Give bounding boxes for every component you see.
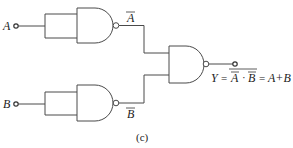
gate-1-inputs — [18, 14, 77, 38]
equals-1: = — [221, 72, 227, 84]
input-b-label: B — [3, 97, 11, 111]
equals-2: = — [259, 72, 265, 84]
formula-result: A+B — [267, 71, 291, 85]
nand-gate-2 — [77, 85, 113, 121]
formula-dot: · — [242, 71, 246, 83]
gate-2-inputs — [18, 92, 77, 115]
nand-gate-3 — [169, 46, 204, 83]
gate-2-output-wire — [119, 75, 169, 103]
nand-gate-1 — [77, 8, 113, 43]
gate-1-bubble — [113, 23, 119, 29]
formula-a: A — [230, 71, 239, 85]
figure-caption: (c) — [136, 131, 149, 144]
input-a-terminal — [14, 24, 18, 28]
gate-1-output-wire — [119, 26, 169, 54]
logic-diagram: A A B B Y = A · B — [0, 0, 293, 148]
formula-b: B — [248, 71, 256, 85]
output-formula: Y = A · B = A+B — [211, 69, 291, 85]
a-bar-label: A — [126, 11, 135, 25]
output-y-terminal — [233, 62, 237, 66]
input-a-label: A — [2, 19, 11, 33]
gate-3-bubble — [203, 61, 209, 67]
b-bar-label: B — [127, 107, 135, 121]
input-b-terminal — [14, 102, 18, 106]
gate-2-bubble — [113, 100, 119, 106]
y-label: Y — [211, 71, 219, 85]
